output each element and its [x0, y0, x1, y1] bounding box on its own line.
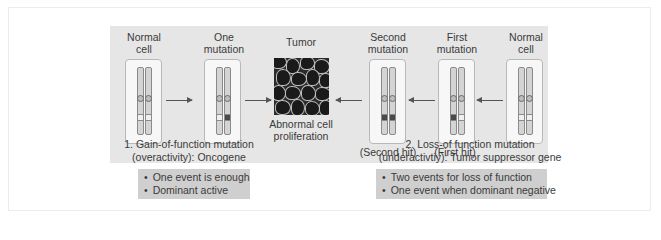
chromosome-icon: [137, 67, 144, 135]
chromosome-icon: [518, 67, 525, 135]
bullet-item: Two events for loss of function: [382, 171, 541, 184]
lof-bullet-list: Two events for loss of function One even…: [376, 169, 547, 199]
chromosome-mutated-icon: [224, 67, 231, 135]
stage-label-gof-normal: Normal cell: [127, 31, 161, 55]
bullet-item: Dominant active: [144, 184, 244, 197]
chromosome-box-lof-normal: [506, 59, 543, 144]
gof-bullet-list: One event is enough Dominant active: [138, 169, 250, 199]
tumor-caption: Abnormal cell proliferation: [269, 118, 333, 142]
bullet-item: One event is enough: [144, 171, 244, 184]
chromosome-box-gof-normal: [125, 59, 162, 144]
chromosome-mutated-icon: [450, 67, 457, 135]
stage-label-gof-one-mutation: One mutation: [204, 31, 244, 55]
tumor-title: Tumor: [286, 36, 316, 48]
arrow-left-icon: [336, 100, 362, 101]
lof-caption: 2. Loss-of function mutation (underactiv…: [379, 138, 562, 164]
stage-label-lof-normal: Normal cell: [509, 31, 543, 55]
chromosome-icon: [526, 67, 533, 135]
tumor-cells-image: [274, 58, 329, 115]
arrow-left-icon: [477, 100, 503, 101]
chromosome-box-gof-one-mutation: [204, 59, 241, 144]
bullet-item: One event when dominant negative: [382, 184, 541, 197]
arrow-right-icon: [166, 100, 192, 101]
chromosome-icon: [145, 67, 152, 135]
chromosome-icon: [216, 67, 223, 135]
chromosome-box-lof-first-mutation: [438, 59, 475, 144]
arrow-left-icon: [409, 100, 435, 101]
gof-caption: 1. Gain-of-function mutation (overactivi…: [124, 138, 254, 164]
chromosome-box-lof-second-mutation: [369, 59, 406, 144]
chromosome-mutated-icon: [381, 67, 388, 135]
stage-label-lof-second-mutation: Second mutation: [368, 31, 408, 55]
chromosome-icon: [458, 67, 465, 135]
stage-label-lof-first-mutation: First mutation: [437, 31, 477, 55]
arrow-right-icon: [245, 100, 271, 101]
chromosome-mutated-icon: [389, 67, 396, 135]
